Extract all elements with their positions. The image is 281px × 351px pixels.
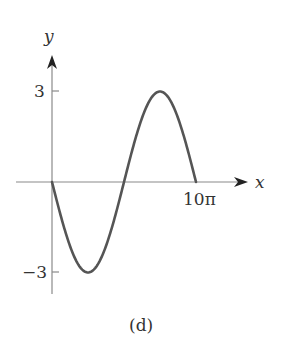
y-tick-label-neg3: −3 (22, 262, 47, 282)
y-tick-label-3: 3 (34, 81, 45, 101)
caption: (d) (129, 315, 153, 335)
x-tick-label-10pi: 10π (183, 189, 216, 209)
x-axis-label: x (255, 172, 265, 192)
chart: y x 3 −3 10π (d) (0, 0, 281, 351)
y-axis-label: y (43, 26, 54, 46)
